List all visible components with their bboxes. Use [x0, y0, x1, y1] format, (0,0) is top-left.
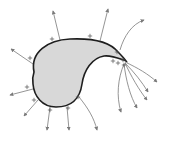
field-line-arrow — [100, 9, 108, 41]
field-line-arrow — [120, 20, 144, 50]
plus-charge-icon — [116, 61, 120, 65]
plus-charge-icon — [32, 98, 36, 102]
plus-charge-icon — [48, 108, 52, 112]
plus-charge-icon — [111, 59, 115, 63]
field-line-arrow — [79, 97, 97, 130]
plus-charge-icon — [50, 37, 54, 41]
field-line-arrow — [118, 64, 124, 112]
field-line-arrow — [53, 11, 60, 40]
field-line-arrow — [24, 100, 38, 116]
charged-conductor-diagram — [0, 0, 170, 145]
plus-charge-icon — [25, 85, 29, 89]
plus-charge-icon — [28, 56, 32, 60]
plus-charge-icon — [66, 106, 70, 110]
field-line-arrow — [124, 64, 137, 108]
field-line-arrow — [125, 63, 147, 100]
field-line-arrow — [47, 107, 50, 130]
plus-charge-icon — [88, 34, 92, 38]
field-line-arrow — [67, 107, 69, 130]
field-line-arrow — [10, 89, 33, 95]
